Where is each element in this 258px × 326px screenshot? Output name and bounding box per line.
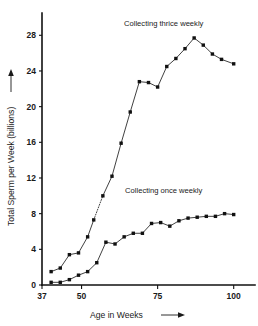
series-markers-thrice-weekly xyxy=(49,36,235,273)
data-point-marker xyxy=(165,65,168,68)
x-axis-title-group: Age in Weeks xyxy=(90,310,185,320)
data-point-marker xyxy=(150,222,153,225)
series-annotation-once-weekly: Collecting once weekly xyxy=(125,186,202,195)
data-point-marker xyxy=(132,232,135,235)
data-point-marker xyxy=(168,224,171,227)
data-point-marker xyxy=(104,240,107,243)
data-point-marker xyxy=(192,36,195,39)
data-point-marker xyxy=(177,219,180,222)
data-point-marker xyxy=(77,273,80,276)
data-point-marker xyxy=(68,253,71,256)
y-tick-label: 28 xyxy=(27,30,37,40)
data-point-marker xyxy=(113,242,116,245)
y-axis-arrow-icon xyxy=(8,69,14,76)
data-point-marker xyxy=(49,270,52,273)
line-chart: 0481216202428 375075100 Collecting thric… xyxy=(0,0,258,326)
data-point-marker xyxy=(156,85,159,88)
y-tick-label: 24 xyxy=(27,66,37,76)
series-line-once-weekly xyxy=(51,214,234,283)
data-point-marker xyxy=(232,62,235,65)
data-point-marker xyxy=(49,281,52,284)
data-point-marker xyxy=(220,58,223,61)
chart-figure: 0481216202428 375075100 Collecting thric… xyxy=(0,0,258,326)
y-tick-label: 0 xyxy=(31,280,36,290)
data-point-marker xyxy=(59,266,62,269)
y-axis-title-group: Total Sperm per Week (billions) xyxy=(6,69,16,226)
data-point-marker xyxy=(122,235,125,238)
y-axis-title: Total Sperm per Week (billions) xyxy=(6,107,16,226)
data-point-marker xyxy=(195,216,198,219)
data-point-marker xyxy=(211,52,214,55)
data-point-marker xyxy=(232,213,235,216)
data-point-marker xyxy=(92,218,95,221)
series-thrice-weekly xyxy=(49,36,235,273)
series-markers-once-weekly xyxy=(49,212,235,284)
y-tick-label: 16 xyxy=(27,137,37,147)
data-point-marker xyxy=(68,278,71,281)
data-point-marker xyxy=(202,43,205,46)
data-point-marker xyxy=(147,81,150,84)
series-annotation-thrice-weekly: Collecting thrice weekly xyxy=(124,19,204,28)
data-point-marker xyxy=(183,47,186,50)
y-axis-tick-labels: 0481216202428 xyxy=(27,30,37,290)
data-point-marker xyxy=(86,270,89,273)
data-point-marker xyxy=(174,57,177,60)
data-point-marker xyxy=(223,212,226,215)
data-point-marker xyxy=(129,110,132,113)
x-axis-arrow-icon xyxy=(178,312,185,318)
series-line-thrice-weekly xyxy=(51,38,234,272)
data-point-marker xyxy=(205,215,208,218)
data-point-marker xyxy=(101,194,104,197)
data-point-marker xyxy=(86,235,89,238)
axes xyxy=(39,13,255,289)
data-point-marker xyxy=(110,175,113,178)
data-point-marker xyxy=(77,251,80,254)
data-point-marker xyxy=(59,281,62,284)
x-axis-title: Age in Weeks xyxy=(90,310,143,320)
y-tick-label: 20 xyxy=(27,102,37,112)
data-point-marker xyxy=(214,215,217,218)
y-tick-label: 4 xyxy=(31,244,36,254)
y-tick-label: 12 xyxy=(27,173,37,183)
x-tick-label: 37 xyxy=(37,291,47,301)
x-axis-tick-labels: 375075100 xyxy=(37,291,241,301)
data-point-marker xyxy=(138,80,141,83)
data-point-marker xyxy=(159,221,162,224)
x-tick-label: 100 xyxy=(227,291,241,301)
data-point-marker xyxy=(186,216,189,219)
series-line-dotted-thrice-weekly xyxy=(94,196,103,220)
y-tick-label: 8 xyxy=(31,209,36,219)
series-once-weekly xyxy=(49,212,235,284)
data-point-marker xyxy=(141,232,144,235)
data-point-marker xyxy=(119,142,122,145)
data-point-marker xyxy=(95,261,98,264)
x-tick-label: 75 xyxy=(153,291,163,301)
x-tick-label: 50 xyxy=(77,291,87,301)
